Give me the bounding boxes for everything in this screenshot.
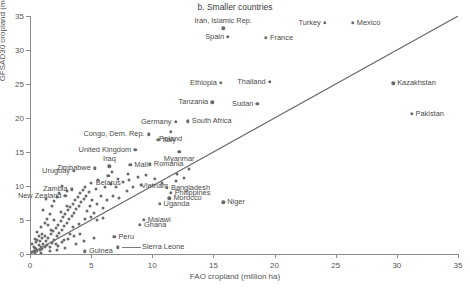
data-point (86, 210, 89, 213)
x-tick (275, 254, 276, 258)
data-point (79, 232, 82, 235)
data-point (70, 214, 73, 217)
point-label: Niger (227, 199, 245, 206)
data-point (106, 199, 109, 202)
label-leader-line (122, 247, 141, 248)
data-point (55, 248, 58, 251)
data-point (84, 218, 87, 221)
x-tick-label: 10 (140, 261, 164, 270)
x-tick-label: 30 (385, 261, 409, 270)
point-label: France (270, 34, 293, 41)
data-point (58, 231, 61, 234)
data-point (31, 243, 34, 246)
data-point (71, 226, 74, 229)
data-point (87, 191, 90, 194)
data-point (81, 189, 84, 192)
data-point (53, 219, 56, 222)
y-tick-label: 30 (2, 46, 24, 55)
data-point (118, 197, 121, 200)
data-point (183, 176, 186, 179)
data-point (175, 172, 178, 175)
point-label: Tanzania (179, 99, 209, 106)
data-point (110, 170, 113, 173)
chart-figure: b. Smaller countries GFSAD30 cropland (m… (0, 0, 470, 290)
data-point (102, 206, 105, 209)
data-point (48, 245, 51, 248)
point-label: Uganda (164, 200, 190, 207)
y-tick (26, 84, 30, 85)
data-point (57, 223, 60, 226)
data-point (40, 225, 43, 228)
data-point (112, 194, 115, 197)
data-point (63, 239, 66, 242)
data-point (85, 194, 88, 197)
data-point (76, 195, 79, 198)
data-point (73, 235, 76, 238)
data-point (51, 204, 54, 207)
data-point (95, 187, 98, 190)
data-point (90, 215, 93, 218)
data-point (42, 209, 45, 212)
data-point (46, 217, 49, 220)
data-point (36, 231, 39, 234)
data-point (47, 224, 50, 227)
data-point (88, 205, 91, 208)
y-tick (26, 118, 30, 119)
x-tick-label: 15 (201, 261, 225, 270)
data-point (80, 201, 83, 204)
x-tick (152, 254, 153, 258)
data-point (36, 239, 39, 242)
point-label: Peru (118, 233, 134, 240)
data-point (69, 233, 72, 236)
data-point (59, 210, 62, 213)
point-label: Spain (205, 33, 224, 40)
data-point (49, 228, 52, 231)
y-tick-label: 20 (2, 114, 24, 123)
data-point (51, 242, 54, 245)
data-point (187, 168, 190, 171)
plot-area: Iran, Islamic Rep.TurkeyMexicoSpainFranc… (30, 16, 458, 254)
data-point (102, 216, 105, 219)
x-tick (213, 254, 214, 258)
data-point (68, 218, 71, 221)
point-label: Thailand (237, 78, 265, 85)
y-tick-label: 0 (2, 250, 24, 259)
y-tick-label: 10 (2, 182, 24, 191)
data-point (84, 185, 87, 188)
point-label: Belarus (96, 179, 121, 186)
data-point (79, 192, 82, 195)
data-point (66, 238, 69, 241)
y-tick-label: 35 (2, 12, 24, 21)
data-point (64, 212, 67, 215)
point-label: Ghana (144, 221, 166, 228)
x-tick-label: 5 (79, 261, 103, 270)
point-label: United Kingdom (79, 146, 132, 153)
data-point (66, 209, 69, 212)
x-tick (91, 254, 92, 258)
x-tick-label: 35 (446, 261, 470, 270)
data-point (90, 182, 93, 185)
data-point (121, 180, 124, 183)
data-point (33, 246, 36, 249)
point-label: Mall (134, 161, 148, 168)
point-label: Italy (162, 136, 176, 143)
x-tick (30, 254, 31, 258)
data-point (174, 179, 177, 182)
point-label: Sudan (232, 100, 253, 107)
y-tick (26, 220, 30, 221)
data-point (53, 199, 56, 202)
data-point (77, 223, 80, 226)
data-point (48, 250, 51, 253)
point-label: Turkey (298, 19, 320, 26)
point-label: Ethiopia (190, 79, 217, 86)
point-label: Romania (154, 161, 184, 168)
data-point (96, 202, 99, 205)
data-point (71, 202, 74, 205)
data-point (77, 204, 80, 207)
data-point (37, 235, 40, 238)
data-point (92, 237, 95, 240)
data-point (55, 235, 58, 238)
point-label: Congo, Dem. Rep. (83, 131, 144, 138)
data-point (60, 228, 63, 231)
x-tick (458, 254, 459, 258)
